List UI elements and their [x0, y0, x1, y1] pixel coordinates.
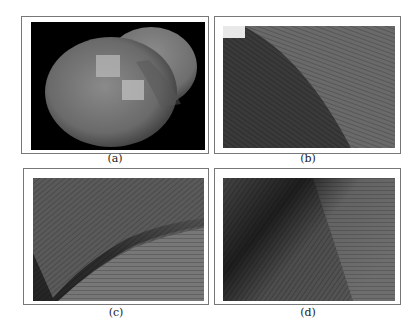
texture-field-b: [223, 26, 395, 148]
caption-d: (d): [278, 306, 338, 319]
caption-b: (b): [278, 152, 338, 165]
texture-field-d: [223, 178, 395, 301]
panel-b-image: [223, 26, 395, 148]
highlight-square-2: [122, 80, 144, 100]
texture-field-c: [33, 178, 204, 301]
heart-surface-render: [31, 22, 205, 150]
panel-a-frame: [21, 16, 209, 154]
panel-c-image: [33, 178, 204, 301]
panel-b-frame: [214, 16, 401, 154]
caption-a: (a): [85, 152, 145, 165]
panel-a-image: [31, 22, 205, 150]
panel-c-frame: [23, 168, 209, 305]
panel-d-image: [223, 178, 395, 301]
bright-corner: [223, 26, 245, 38]
caption-c: (c): [86, 306, 146, 319]
highlight-square-1: [96, 55, 120, 77]
panel-d-frame: [214, 168, 401, 305]
